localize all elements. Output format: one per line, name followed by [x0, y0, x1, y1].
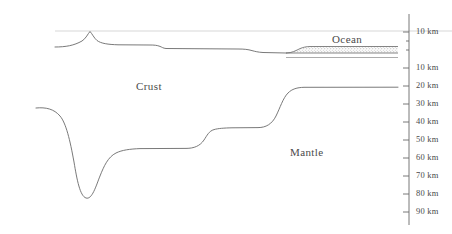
label-crust: Crust: [136, 80, 162, 92]
axis-tick-label: 30 km: [416, 98, 439, 108]
axis-tick-label: 10 km: [416, 26, 439, 36]
axis-tick-label: 70 km: [416, 170, 439, 180]
label-mantle: Mantle: [290, 146, 324, 158]
cross-section-figure: Crust Mantle Ocean 10 km10 km20 km30 km4…: [0, 0, 452, 234]
axis-tick-label: 10 km: [416, 62, 439, 72]
depth-axis: [403, 14, 409, 225]
depth-axis-ticks: [403, 32, 409, 212]
label-ocean: Ocean: [332, 33, 362, 45]
moho-boundary: [36, 87, 398, 198]
axis-tick-label: 60 km: [416, 152, 439, 162]
axis-tick-label: 50 km: [416, 134, 439, 144]
cross-section-canvas: [0, 0, 452, 234]
axis-tick-label: 80 km: [416, 188, 439, 198]
axis-tick-label: 20 km: [416, 80, 439, 90]
land-surface-profile: [55, 32, 286, 54]
axis-tick-label: 90 km: [416, 206, 439, 216]
axis-tick-label: 40 km: [416, 116, 439, 126]
